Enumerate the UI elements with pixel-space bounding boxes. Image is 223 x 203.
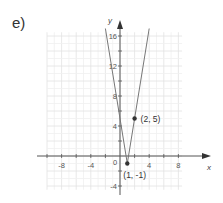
- y-tick-label: -4: [110, 182, 117, 191]
- x-tick-label: 4: [147, 161, 151, 170]
- x-tick-label: 8: [176, 161, 180, 170]
- y-tick-label: 4: [113, 122, 117, 131]
- point-label-vertex: (1, -1): [123, 170, 146, 180]
- data-point: [132, 116, 136, 120]
- x-axis-arrow-icon: [202, 153, 211, 159]
- origin-label: 0: [113, 158, 117, 167]
- coordinate-plane: -8-4048-4481216xy(1, -1)(2, 5): [0, 0, 223, 203]
- data-point: [125, 161, 129, 165]
- x-axis-label: x: [206, 163, 212, 172]
- y-axis-arrow-icon: [117, 20, 123, 29]
- y-tick-label: 16: [109, 32, 117, 41]
- x-tick-label: -4: [87, 161, 94, 170]
- x-tick-label: -8: [58, 161, 65, 170]
- y-tick-label: 12: [109, 62, 117, 71]
- point-label: (2, 5): [141, 114, 161, 124]
- y-axis-label: y: [107, 16, 113, 25]
